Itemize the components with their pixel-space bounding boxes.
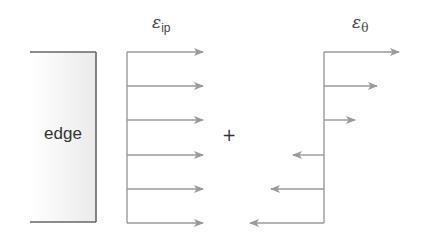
diagram-lines (0, 0, 426, 246)
bending-strain-label: εθ (352, 14, 368, 34)
plus-operator: + (222, 127, 236, 144)
in-plane-strain-arrows (127, 52, 203, 223)
in-plane-strain-label: εip (152, 14, 170, 34)
edge-label: edge (30, 124, 96, 144)
epsilon-symbol: ε (352, 12, 361, 32)
theta-subscript: θ (361, 21, 368, 35)
bending-strain-arrows (250, 52, 399, 223)
strain-superposition-diagram: edge εip εθ + (0, 0, 426, 246)
epsilon-symbol: ε (152, 12, 161, 32)
in-plane-subscript: ip (161, 21, 170, 35)
